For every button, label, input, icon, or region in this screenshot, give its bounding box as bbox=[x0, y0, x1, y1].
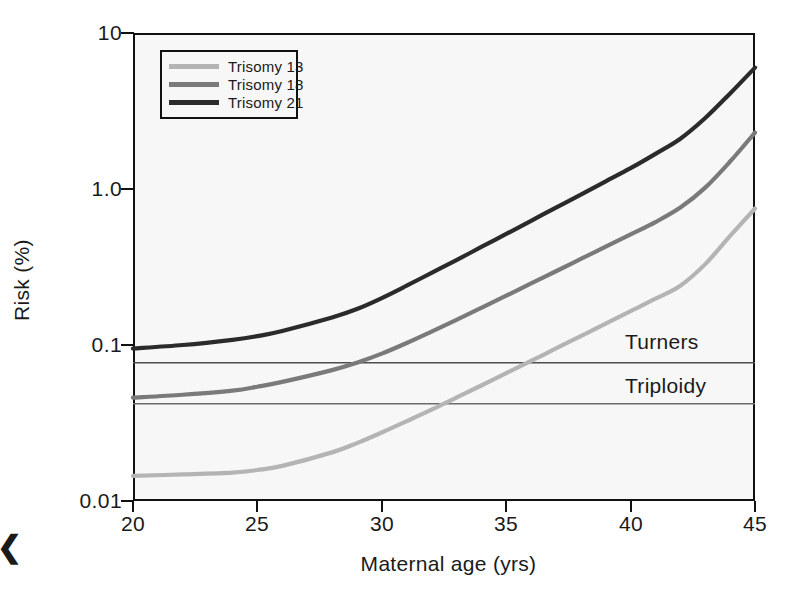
figure-chromosomal-risk-by-maternal-age: 10 1.0 0.1 0.01 20 25 30 35 40 45 Matern… bbox=[0, 0, 797, 600]
legend-item-trisomy-13: Trisomy 13 bbox=[169, 57, 289, 75]
x-tick-mark bbox=[132, 501, 134, 512]
y-tick-mark bbox=[121, 32, 134, 34]
x-tick-mark bbox=[754, 501, 756, 512]
x-tick-label: 30 bbox=[370, 512, 394, 536]
x-tick-label: 40 bbox=[619, 512, 643, 536]
reference-label-triploidy: Triploidy bbox=[625, 374, 706, 398]
y-tick-mark bbox=[121, 188, 134, 190]
legend-swatch-icon bbox=[169, 82, 219, 87]
y-tick-mark bbox=[121, 344, 134, 346]
figure-corner-glyph: ❮ bbox=[0, 532, 22, 562]
legend-swatch-icon bbox=[169, 64, 219, 69]
y-tick-label: 10 bbox=[98, 21, 122, 45]
reference-label-turners: Turners bbox=[625, 330, 699, 354]
y-axis-ticks: 10 1.0 0.1 0.01 bbox=[36, 0, 122, 600]
legend-label: Trisomy 13 bbox=[228, 59, 304, 74]
x-tick-label: 35 bbox=[494, 512, 518, 536]
x-tick-mark bbox=[381, 501, 383, 512]
y-axis-title: Risk (%) bbox=[10, 200, 34, 360]
x-tick-label: 25 bbox=[245, 512, 269, 536]
x-axis-title: Maternal age (yrs) bbox=[0, 552, 797, 576]
y-tick-label: 1.0 bbox=[92, 177, 122, 201]
legend: Trisomy 13 Trisomy 18 Trisomy 21 bbox=[160, 50, 298, 119]
x-tick-label: 20 bbox=[121, 512, 145, 536]
legend-swatch-icon bbox=[169, 100, 219, 105]
legend-label: Trisomy 21 bbox=[228, 95, 304, 110]
y-tick-label: 0.01 bbox=[80, 489, 122, 513]
legend-label: Trisomy 18 bbox=[228, 77, 304, 92]
x-axis-title-text: Maternal age (yrs) bbox=[361, 552, 537, 575]
x-tick-mark bbox=[505, 501, 507, 512]
x-tick-mark bbox=[256, 501, 258, 512]
x-tick-mark bbox=[630, 501, 632, 512]
legend-item-trisomy-21: Trisomy 21 bbox=[169, 93, 289, 111]
legend-item-trisomy-18: Trisomy 18 bbox=[169, 75, 289, 93]
y-tick-label: 0.1 bbox=[92, 333, 122, 357]
x-tick-label: 45 bbox=[743, 512, 767, 536]
